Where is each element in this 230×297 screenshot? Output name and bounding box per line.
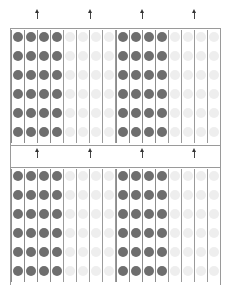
filled-dot-cell [130,227,142,239]
filled-dot-cell [12,208,24,220]
filled-dot-icon [52,247,62,257]
faint-dot-cell [77,107,89,119]
faint-dot-cell [77,69,89,81]
faint-dot-icon [196,51,206,61]
filled-dot-cell [38,227,50,239]
filled-dot-cell [130,107,142,119]
faint-dot-cell [208,107,220,119]
filled-dot-cell [12,50,24,62]
filled-dot-icon [26,127,36,137]
filled-dot-cell [143,88,155,100]
filled-dot-icon [39,70,49,80]
filled-dot-icon [131,209,141,219]
faint-dot-icon [196,89,206,99]
faint-dot-icon [209,108,219,118]
filled-dot-icon [144,32,154,42]
faint-dot-icon [104,127,114,137]
faint-dot-icon [78,127,88,137]
faint-dot-cell [90,69,102,81]
filled-dot-cell [51,69,63,81]
faint-dot-cell [208,170,220,182]
faint-dot-icon [91,108,101,118]
filled-dot-cell [25,88,37,100]
filled-dot-icon [118,89,128,99]
up-arrow-icon [90,12,91,19]
faint-dot-icon [65,70,75,80]
faint-dot-icon [209,190,219,200]
filled-dot-icon [118,171,128,181]
faint-dot-cell [195,246,207,258]
faint-dot-cell [182,69,194,81]
filled-dot-cell [12,189,24,201]
faint-dot-cell [208,227,220,239]
faint-dot-icon [104,171,114,181]
faint-dot-cell [90,246,102,258]
filled-dot-cell [25,246,37,258]
filled-dot-cell [12,69,24,81]
faint-dot-cell [103,50,115,62]
filled-dot-icon [157,266,167,276]
section-divider [10,145,221,146]
faint-dot-icon [170,127,180,137]
faint-dot-cell [182,246,194,258]
faint-dot-cell [103,126,115,138]
faint-dot-cell [64,107,76,119]
faint-dot-cell [103,227,115,239]
faint-dot-cell [90,50,102,62]
faint-dot-icon [78,247,88,257]
faint-dot-icon [91,247,101,257]
faint-dot-cell [195,88,207,100]
filled-dot-cell [38,208,50,220]
filled-dot-icon [118,70,128,80]
faint-dot-icon [209,89,219,99]
faint-dot-cell [169,107,181,119]
filled-dot-icon [13,51,23,61]
faint-dot-cell [169,170,181,182]
faint-dot-icon [170,190,180,200]
faint-dot-icon [78,89,88,99]
filled-dot-icon [52,70,62,80]
faint-dot-cell [208,50,220,62]
faint-dot-cell [103,170,115,182]
faint-dot-icon [91,209,101,219]
filled-dot-cell [143,69,155,81]
filled-dot-icon [131,127,141,137]
filled-dot-icon [157,70,167,80]
faint-dot-icon [104,209,114,219]
filled-dot-icon [144,127,154,137]
faint-dot-cell [90,31,102,43]
filled-dot-cell [156,246,168,258]
faint-dot-cell [77,227,89,239]
faint-dot-cell [64,246,76,258]
filled-dot-icon [26,190,36,200]
filled-dot-icon [26,51,36,61]
filled-dot-cell [117,88,129,100]
filled-dot-cell [143,246,155,258]
faint-dot-cell [90,227,102,239]
faint-dot-icon [78,190,88,200]
faint-dot-cell [169,31,181,43]
faint-dot-icon [183,247,193,257]
faint-dot-cell [77,208,89,220]
filled-dot-cell [25,170,37,182]
faint-dot-icon [209,247,219,257]
filled-dot-cell [12,126,24,138]
filled-dot-cell [51,50,63,62]
faint-dot-icon [91,89,101,99]
filled-dot-icon [144,209,154,219]
filled-dot-cell [156,189,168,201]
filled-dot-cell [51,88,63,100]
faint-dot-cell [195,69,207,81]
faint-dot-cell [90,208,102,220]
faint-dot-icon [91,32,101,42]
filled-dot-cell [130,126,142,138]
faint-dot-cell [103,265,115,277]
faint-dot-icon [78,228,88,238]
faint-dot-cell [169,50,181,62]
filled-dot-cell [156,265,168,277]
faint-dot-icon [209,32,219,42]
faint-dot-icon [196,70,206,80]
filled-dot-icon [26,89,36,99]
filled-dot-icon [26,266,36,276]
filled-dot-cell [156,107,168,119]
